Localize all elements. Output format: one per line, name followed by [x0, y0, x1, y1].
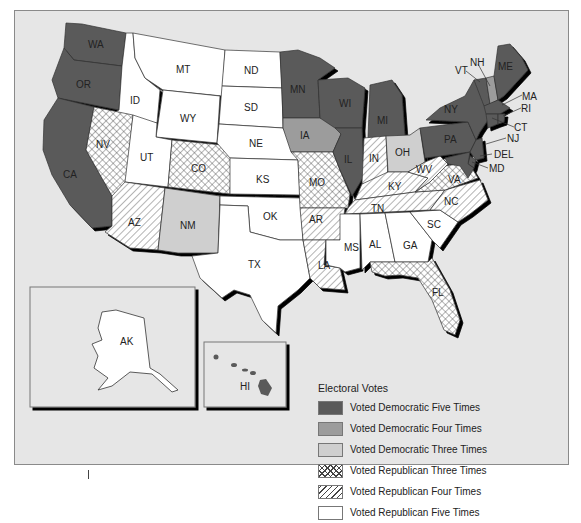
legend-label: Voted Democratic Three Times [350, 444, 487, 455]
svg-text:KS: KS [256, 174, 270, 185]
svg-text:KY: KY [388, 181, 402, 192]
legend-label: Voted Republican Three Times [350, 465, 487, 476]
legend-item-dem4: Voted Democratic Four Times [318, 418, 518, 439]
legend-item-rep4: Voted Republican Four Times [318, 481, 518, 502]
legend-item-rep3: Voted Republican Three Times [318, 460, 518, 481]
svg-text:ND: ND [244, 65, 258, 76]
legend-item-dem3: Voted Democratic Three Times [318, 439, 518, 460]
svg-text:SC: SC [427, 219, 441, 230]
svg-text:MO: MO [309, 177, 325, 188]
svg-text:WI: WI [339, 98, 351, 109]
swatch-rep4 [318, 485, 343, 499]
svg-text:VA: VA [448, 174, 461, 185]
swatch-rep5 [318, 506, 343, 520]
svg-text:AZ: AZ [128, 217, 141, 228]
svg-text:NE: NE [249, 138, 263, 149]
state-CT[interactable] [486, 114, 498, 128]
svg-text:RI: RI [521, 103, 531, 114]
hawaii-inset [204, 342, 286, 407]
svg-text:FL: FL [432, 287, 444, 298]
legend-item-dem5: Voted Democratic Five Times [318, 397, 518, 418]
svg-text:NJ: NJ [507, 133, 519, 144]
svg-text:LA: LA [318, 260, 331, 271]
svg-text:NH: NH [470, 57, 484, 68]
swatch-dem3 [318, 443, 343, 457]
svg-text:AR: AR [309, 214, 323, 225]
svg-text:DEL: DEL [494, 149, 514, 160]
svg-text:GA: GA [403, 240, 418, 251]
legend-label: Voted Democratic Four Times [350, 423, 482, 434]
svg-text:CO: CO [191, 163, 206, 174]
svg-text:MA: MA [522, 91, 537, 102]
svg-text:CA: CA [63, 169, 77, 180]
svg-text:NY: NY [444, 104, 458, 115]
svg-text:TX: TX [248, 259, 261, 270]
state-MI[interactable] [368, 80, 405, 138]
svg-text:WY: WY [180, 113, 196, 124]
swatch-dem5 [318, 401, 343, 415]
legend-label: Voted Republican Four Times [350, 486, 481, 497]
svg-text:IN: IN [369, 153, 379, 164]
legend-title: Electoral Votes [318, 382, 518, 394]
svg-text:PA: PA [444, 134, 457, 145]
svg-text:HI: HI [240, 381, 250, 392]
svg-text:MT: MT [176, 64, 190, 75]
svg-text:CT: CT [514, 122, 527, 133]
svg-text:WV: WV [416, 164, 432, 175]
swatch-dem4 [318, 422, 343, 436]
legend-label: Voted Republican Five Times [350, 507, 480, 518]
svg-text:MS: MS [344, 242, 359, 253]
svg-text:OH: OH [395, 147, 410, 158]
svg-text:NV: NV [96, 139, 110, 150]
state-FL[interactable] [370, 258, 460, 335]
svg-text:NM: NM [180, 220, 196, 231]
svg-text:MI: MI [377, 115, 388, 126]
legend: Electoral Votes Voted Democratic Five Ti… [318, 382, 518, 523]
legend-label: Voted Democratic Five Times [350, 402, 480, 413]
svg-text:IL: IL [344, 154, 353, 165]
svg-text:ID: ID [130, 95, 140, 106]
svg-text:OR: OR [76, 79, 91, 90]
tick-mark [88, 470, 89, 479]
svg-text:IA: IA [300, 130, 310, 141]
svg-text:MN: MN [290, 84, 306, 95]
svg-text:OK: OK [263, 211, 278, 222]
legend-item-rep5: Voted Republican Five Times [318, 502, 518, 523]
svg-text:VT: VT [455, 65, 468, 76]
svg-text:ME: ME [498, 61, 513, 72]
svg-text:SD: SD [244, 102, 258, 113]
svg-text:TN: TN [371, 203, 384, 214]
svg-text:AK: AK [120, 336, 134, 347]
svg-text:UT: UT [140, 152, 153, 163]
svg-text:MD: MD [489, 163, 505, 174]
svg-text:NC: NC [444, 196, 458, 207]
svg-text:WA: WA [88, 39, 104, 50]
svg-text:AL: AL [369, 239, 382, 250]
swatch-rep3 [318, 464, 343, 478]
